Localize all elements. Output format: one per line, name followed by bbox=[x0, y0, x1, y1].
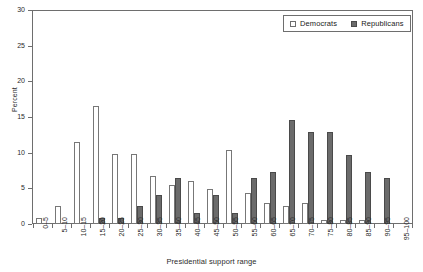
bar-group bbox=[317, 11, 336, 224]
y-axis-tick-label: 20 bbox=[17, 76, 25, 85]
x-axis-category: 40–45 bbox=[185, 229, 204, 255]
bar-group bbox=[355, 11, 374, 224]
y-axis-tick-mark bbox=[28, 81, 32, 82]
x-axis-category: 5–10 bbox=[52, 229, 71, 255]
bar-republicans bbox=[308, 132, 314, 224]
x-axis-category-label: 0–5 bbox=[42, 217, 50, 243]
x-axis-category-label: 20–25 bbox=[118, 217, 126, 243]
x-axis-category-label: 90–95 bbox=[384, 217, 392, 243]
x-axis-category: 55–60 bbox=[241, 229, 260, 255]
x-axis-category: 65–70 bbox=[279, 229, 298, 255]
bar-group bbox=[374, 11, 393, 224]
bar-group bbox=[336, 11, 355, 224]
y-axis-tick-mark bbox=[28, 188, 32, 189]
x-axis-title: Presidential support range bbox=[0, 257, 423, 266]
x-axis-category: 15–20 bbox=[90, 229, 109, 255]
bar-democrats bbox=[112, 154, 118, 224]
x-axis-tick-mark bbox=[317, 224, 318, 228]
bar-group bbox=[52, 11, 71, 224]
x-axis-category: 85–90 bbox=[355, 229, 374, 255]
x-axis-category-label: 45–50 bbox=[213, 217, 221, 243]
y-axis-title: Percent bbox=[11, 65, 18, 135]
bar-group bbox=[147, 11, 166, 224]
x-axis-tick-mark bbox=[166, 224, 167, 228]
bar-group bbox=[298, 11, 317, 224]
y-axis-tick-label: 30 bbox=[17, 5, 25, 14]
x-axis-category-label: 30–35 bbox=[156, 217, 164, 243]
filled-square-icon bbox=[351, 21, 357, 27]
bar-chart: Percent 051015202530 0–55–1010–1515–2020… bbox=[0, 0, 423, 272]
x-axis-tick-mark bbox=[128, 224, 129, 228]
bar-republicans bbox=[346, 155, 352, 224]
x-axis-category-label: 80–85 bbox=[346, 217, 354, 243]
x-axis-category: 50–55 bbox=[223, 229, 242, 255]
x-axis-tick-mark bbox=[241, 224, 242, 228]
bar-group bbox=[71, 11, 90, 224]
x-axis-tick-mark bbox=[52, 224, 53, 228]
bar-group bbox=[90, 11, 109, 224]
x-axis-tick-mark bbox=[223, 224, 224, 228]
x-axis-category: 80–85 bbox=[336, 229, 355, 255]
x-axis-category-label: 65–70 bbox=[289, 217, 297, 243]
bar-group bbox=[166, 11, 185, 224]
x-axis-tick-mark bbox=[71, 224, 72, 228]
x-axis-category-label: 5–10 bbox=[61, 217, 69, 243]
chart-legend: Democrats Republicans bbox=[283, 15, 411, 32]
x-axis-category: 95–100 bbox=[393, 229, 412, 255]
x-axis-category-label: 60–65 bbox=[270, 217, 278, 243]
y-axis-tick-label: 0 bbox=[21, 219, 25, 228]
x-axis-category: 75–80 bbox=[317, 229, 336, 255]
x-axis-category-label: 75–80 bbox=[327, 217, 335, 243]
x-axis-category: 60–65 bbox=[260, 229, 279, 255]
x-axis-category: 45–50 bbox=[204, 229, 223, 255]
x-axis-tick-mark bbox=[355, 224, 356, 228]
y-axis-tick-label: 15 bbox=[17, 112, 25, 121]
x-axis-tick-mark bbox=[33, 224, 34, 228]
x-axis-category: 10–15 bbox=[71, 229, 90, 255]
x-axis-tick-mark bbox=[260, 224, 261, 228]
bar-group bbox=[204, 11, 223, 224]
bar-group bbox=[223, 11, 242, 224]
bar-group bbox=[241, 11, 260, 224]
x-axis-category-label: 50–55 bbox=[232, 217, 240, 243]
x-axis-category: 30–35 bbox=[147, 229, 166, 255]
x-axis-category-label: 15–20 bbox=[99, 217, 107, 243]
legend-item-republicans: Republicans bbox=[351, 19, 403, 28]
bar-republicans bbox=[289, 120, 295, 224]
y-axis-tick-mark bbox=[28, 46, 32, 47]
bar-group bbox=[279, 11, 298, 224]
x-axis-category-label: 25–30 bbox=[137, 217, 145, 243]
bar-group bbox=[128, 11, 147, 224]
legend-label-republicans: Republicans bbox=[361, 19, 403, 28]
x-axis-tick-mark bbox=[109, 224, 110, 228]
x-axis-category-label: 40–45 bbox=[194, 217, 202, 243]
x-axis-category-label: 70–75 bbox=[308, 217, 316, 243]
x-axis-category: 35–40 bbox=[166, 229, 185, 255]
x-axis-category: 25–30 bbox=[128, 229, 147, 255]
legend-label-democrats: Democrats bbox=[300, 19, 337, 28]
bar-group bbox=[109, 11, 128, 224]
y-axis-tick-label: 5 bbox=[21, 183, 25, 192]
x-axis-tick-mark bbox=[374, 224, 375, 228]
y-axis-tick-label: 10 bbox=[17, 148, 25, 157]
x-axis-tick-mark bbox=[412, 224, 413, 228]
y-axis-tick-mark bbox=[28, 117, 32, 118]
bar-republicans bbox=[327, 132, 333, 224]
y-axis-tick-label: 25 bbox=[17, 41, 25, 50]
x-axis-category: 0–5 bbox=[33, 229, 52, 255]
x-axis-tick-mark bbox=[393, 224, 394, 228]
bar-groups bbox=[33, 11, 412, 224]
x-axis-tick-mark bbox=[279, 224, 280, 228]
x-axis-category: 70–75 bbox=[298, 229, 317, 255]
x-axis-tick-mark bbox=[298, 224, 299, 228]
x-axis-category: 90–95 bbox=[374, 229, 393, 255]
x-axis-tick-mark bbox=[336, 224, 337, 228]
bar-group bbox=[393, 11, 412, 224]
x-axis-category-label: 35–40 bbox=[175, 217, 183, 243]
x-axis-category: 20–25 bbox=[109, 229, 128, 255]
x-axis-tick-mark bbox=[147, 224, 148, 228]
x-axis-tick-mark bbox=[204, 224, 205, 228]
y-axis-tick-mark bbox=[28, 10, 32, 11]
x-axis-category-label: 55–60 bbox=[251, 217, 259, 243]
x-axis-tick-mark bbox=[185, 224, 186, 228]
